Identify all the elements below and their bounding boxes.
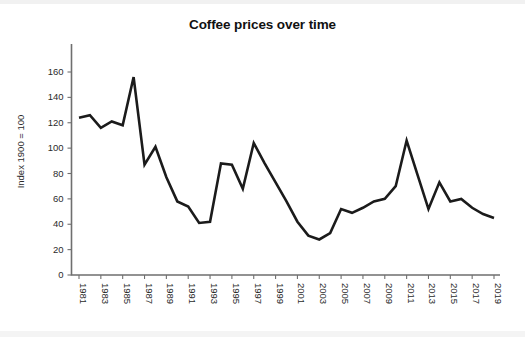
line-chart-plot: 020406080100120140160 198119831985198719… [0, 0, 525, 337]
x-tick-label: 1995 [231, 283, 242, 304]
chart-figure: Coffee prices over time 0204060801001201… [0, 0, 525, 337]
x-tick-label: 2003 [318, 283, 329, 304]
x-tick-label: 1989 [165, 283, 176, 304]
x-axis: 1981198319851987198919911993199519971999… [78, 275, 504, 304]
y-tick-label: 100 [48, 142, 64, 153]
y-tick-label: 140 [48, 91, 64, 102]
x-tick-label: 1993 [209, 283, 220, 304]
data-series [79, 77, 494, 239]
x-tick-label: 1997 [253, 283, 264, 304]
x-tick-label: 1999 [275, 283, 286, 304]
x-tick-label: 2001 [296, 283, 307, 304]
y-tick-label: 0 [58, 269, 63, 280]
x-tick-label: 1981 [78, 283, 89, 304]
x-tick-label: 2019 [493, 283, 504, 304]
y-tick-label: 60 [53, 193, 64, 204]
x-tick-label: 2011 [406, 283, 417, 303]
y-axis: 020406080100120140160 [48, 66, 72, 280]
x-tick-label: 1983 [100, 283, 111, 304]
y-tick-label: 80 [53, 168, 64, 179]
y-axis-title-text: Index 1900 = 100 [15, 115, 26, 189]
x-tick-label: 2015 [449, 283, 460, 304]
y-tick-label: 40 [53, 218, 64, 229]
x-tick-label: 1987 [144, 283, 155, 304]
y-tick-label: 120 [48, 117, 64, 128]
y-axis-title: Index 1900 = 100 [15, 115, 26, 189]
x-tick-label: 2017 [471, 283, 482, 304]
x-tick-label: 1985 [122, 283, 133, 304]
x-tick-label: 2005 [340, 283, 351, 304]
axis-spines [72, 44, 501, 275]
x-tick-label: 2013 [427, 283, 438, 304]
axis-spine-path [72, 44, 501, 275]
y-tick-label: 20 [53, 244, 64, 255]
y-tick-label: 160 [48, 66, 64, 77]
x-tick-label: 2007 [362, 283, 373, 304]
x-tick-label: 2009 [384, 283, 395, 304]
series-line-coffee-price-index [79, 77, 494, 239]
x-tick-label: 1991 [187, 283, 198, 304]
